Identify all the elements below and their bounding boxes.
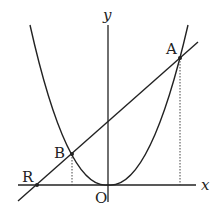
label-x: x: [201, 176, 210, 194]
point-r: [35, 183, 39, 187]
point-b: [70, 152, 74, 156]
diagram: A B R O x y: [0, 0, 219, 218]
label-origin: O: [95, 189, 107, 207]
graph: A B R O x y: [0, 0, 219, 218]
label-a: A: [165, 40, 177, 58]
label-b: B: [54, 144, 65, 162]
label-r: R: [22, 168, 34, 186]
label-y: y: [102, 6, 112, 24]
point-a: [178, 56, 182, 60]
